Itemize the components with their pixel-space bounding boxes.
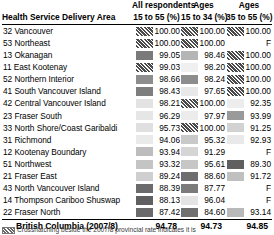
cell-all-respondents: 98.66	[132, 73, 181, 85]
shade-swatch	[181, 160, 198, 169]
cell-value: 98.66	[154, 75, 180, 83]
cell-ages-35-55: F	[226, 194, 272, 206]
cell-all-respondents: 99.05	[132, 49, 181, 61]
cell-value: 100.00	[199, 99, 225, 107]
crosshatch-swatch	[227, 87, 244, 96]
shade-swatch	[136, 147, 153, 156]
table-row: 13 Okanagan99.0598.46100.00	[2, 49, 272, 61]
cell-value: 100.00	[245, 87, 271, 95]
cell-ages-15-34: 91.29	[181, 146, 226, 158]
cell-ages-35-55: F	[226, 182, 272, 194]
cell-ages-15-34: 100.00	[181, 25, 226, 38]
row-area-label: 51 Northwest	[2, 158, 132, 170]
cell-ages-15-34: 97.97	[181, 110, 226, 122]
shade-swatch	[136, 196, 153, 205]
cell-value: 93.14	[245, 208, 271, 216]
cell-all-respondents: 100.00	[132, 37, 181, 49]
shade-swatch	[181, 147, 198, 156]
cell-value: 96.29	[154, 112, 180, 120]
cell-value: 99.05	[154, 51, 180, 59]
cell-value: 95.73	[154, 124, 180, 132]
shade-swatch	[181, 75, 198, 84]
footnote-text: Crosshatching beside the 2007/8 provinci…	[17, 226, 196, 234]
cell-all-respondents: 100.00	[132, 25, 181, 38]
shade-swatch	[227, 172, 244, 181]
cell-value: 91.29	[199, 148, 225, 156]
shade-swatch	[181, 63, 198, 72]
cell-value: 98.46	[199, 51, 225, 59]
cell-value: 100.00	[199, 27, 225, 35]
table-row: 43 North Vancouver Island88.3987.77F	[2, 182, 272, 194]
header-col3-top: Ages	[226, 0, 272, 11]
shade-swatch	[227, 208, 244, 217]
crosshatch-swatch	[227, 63, 244, 72]
cell-ages-15-34: 84.60	[181, 206, 226, 219]
row-area-label: 21 Fraser East	[2, 170, 132, 182]
shade-swatch	[136, 123, 153, 132]
crosshatch-swatch	[181, 123, 198, 132]
shade-swatch	[136, 160, 153, 169]
cell-ages-15-34: 98.24	[181, 73, 226, 85]
cell-value: 92.35	[245, 99, 271, 107]
table-row: 22 Fraser North87.4284.6093.14	[2, 206, 272, 219]
header-area-spacer	[2, 0, 132, 11]
crosshatch-swatch	[227, 51, 244, 60]
cell-value: 100.00	[245, 27, 271, 35]
row-area-label: 33 North Shore/Coast Garibaldi	[2, 122, 132, 134]
cell-value: 93.32	[154, 160, 180, 168]
cell-ages-35-55: 100.00	[226, 61, 272, 73]
cell-ages-15-34: 100.00	[181, 37, 226, 49]
header-row-top: All respondents Ages Ages	[2, 0, 272, 11]
shade-swatch	[227, 99, 244, 108]
table-header: All respondents Ages Ages Health Service…	[2, 0, 272, 25]
crosshatch-swatch	[136, 63, 153, 72]
cell-ages-35-55: 100.00	[226, 25, 272, 38]
shade-swatch	[181, 111, 198, 120]
cell-ages-35-55: 93.14	[226, 206, 272, 219]
cell-value: 91.25	[245, 124, 271, 132]
table-row: 53 Northeast100.00100.00F	[2, 37, 272, 49]
cell-value: 88.39	[154, 184, 180, 192]
row-area-label: 23 Fraser South	[2, 110, 132, 122]
crosshatch-swatch	[181, 99, 198, 108]
crosshatch-swatch	[181, 39, 198, 48]
cell-ages-15-34: 98.20	[181, 61, 226, 73]
health-service-delivery-area-table: All respondents Ages Ages Health Service…	[2, 0, 272, 235]
shade-swatch	[136, 75, 153, 84]
crosshatch-swatch	[227, 27, 244, 36]
crosshatch-swatch	[227, 75, 244, 84]
row-area-label: 11 East Kootenay	[2, 61, 132, 73]
header-col1-top: All respondents	[132, 0, 181, 11]
cell-value: 88.60	[199, 172, 225, 180]
cell-all-respondents: 94.06	[132, 134, 181, 146]
cell-ages-15-34: 98.46	[181, 49, 226, 61]
empty-swatch	[227, 196, 244, 205]
table-row: 31 Richmond94.0695.3292.93	[2, 134, 272, 146]
shade-swatch	[136, 51, 153, 60]
table-row: 21 Fraser East89.2488.6091.72	[2, 170, 272, 182]
cell-all-respondents: 89.24	[132, 170, 181, 182]
table-row: 51 Northwest93.3295.6189.30	[2, 158, 272, 170]
cell-value: 100.00	[245, 51, 271, 59]
row-area-label: 14 Thompson Cariboo Shuswap	[2, 194, 132, 206]
cell-value: 100.00	[154, 27, 180, 35]
shade-swatch	[136, 208, 153, 217]
cell-value: 98.21	[154, 99, 180, 107]
cell-all-respondents: 99.03	[132, 61, 181, 73]
cell-all-respondents: 98.43	[132, 85, 181, 97]
table-row: 52 Northern Interior98.6698.24100.00	[2, 73, 272, 85]
cell-value: 98.43	[154, 87, 180, 95]
cell-ages-35-55: F	[226, 146, 272, 158]
shade-swatch	[181, 87, 198, 96]
table-row: 14 Thompson Cariboo Shuswap88.1396.04F	[2, 194, 272, 206]
crosshatch-legend-icon	[2, 227, 15, 234]
cell-value: F	[245, 39, 271, 47]
cell-value: 98.20	[199, 63, 225, 71]
cell-ages-15-34: 96.04	[181, 194, 226, 206]
cell-ages-15-34: 97.65	[181, 85, 226, 97]
table-row: 33 North Shore/Coast Garibaldi95.73100.0…	[2, 122, 272, 134]
shade-swatch	[227, 135, 244, 144]
cell-all-respondents: 87.42	[132, 206, 181, 219]
row-area-label: 32 Vancouver	[2, 25, 132, 38]
header-area-label: Health Service Delivery Area	[2, 11, 132, 25]
